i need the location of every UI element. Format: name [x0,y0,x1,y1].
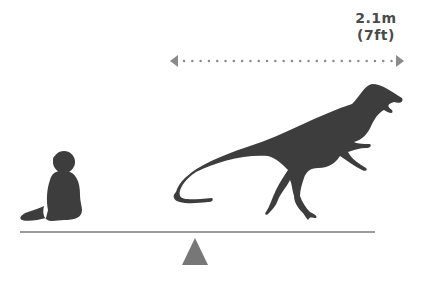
baby-silhouette [20,151,82,221]
size-comparison-diagram [0,0,423,288]
arrow-left-head [170,55,178,67]
length-arrow [170,55,404,67]
fulcrum-triangle [182,238,208,265]
dinosaur-silhouette [174,84,403,220]
arrow-right-head [396,55,404,67]
